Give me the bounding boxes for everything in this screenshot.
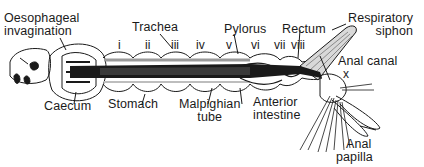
label-rectum: Rectum xyxy=(282,23,326,36)
segment-label-vi: vi xyxy=(251,39,260,51)
segment-label-v: v xyxy=(226,39,232,51)
abdomen-upper xyxy=(103,52,250,58)
abdomen-lower xyxy=(103,84,250,92)
segment-label-viii: viii xyxy=(291,39,305,51)
label-malpighian-tube: Malpighian tube xyxy=(179,98,240,124)
segment-label-i: i xyxy=(118,39,121,51)
label-anterior-intestine: Anterior intestine xyxy=(253,96,300,122)
segment-label-iv: iv xyxy=(196,39,205,51)
label-caecum: Caecum xyxy=(44,100,91,113)
segment-label-ii: ii xyxy=(145,39,150,51)
label-respiratory-siphon: Respiratory siphon xyxy=(348,12,413,38)
label-anal-papilla: Anal papilla xyxy=(336,138,373,164)
segment-label-x: x xyxy=(343,68,349,80)
larva-anatomy-diagram: Oesophageal invagination Trachea Pylorus… xyxy=(0,0,424,167)
label-stomach: Stomach xyxy=(108,98,158,111)
label-pylorus: Pylorus xyxy=(224,23,266,36)
gut xyxy=(62,53,322,94)
label-trachea: Trachea xyxy=(132,21,178,34)
segment-label-vii: vii xyxy=(274,39,285,51)
segment-label-iii: iii xyxy=(171,39,179,51)
label-oesophageal-invagination: Oesophageal invagination xyxy=(4,12,79,38)
